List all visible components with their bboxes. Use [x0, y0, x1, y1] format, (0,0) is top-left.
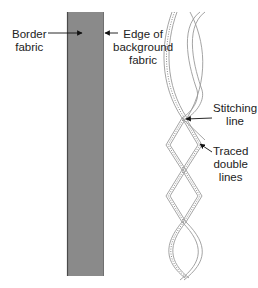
label-line: Traced — [213, 145, 248, 158]
label-line: Edge of — [113, 28, 173, 41]
label-line: background — [113, 41, 173, 54]
label-line: lines — [213, 171, 248, 184]
label-line: line — [213, 115, 257, 128]
label-line: Stitching — [213, 102, 257, 115]
label-line: fabric — [113, 54, 173, 67]
label-border-fabric: Border fabric — [12, 28, 47, 54]
label-traced-double-lines: Traced double lines — [213, 145, 248, 184]
label-line: double — [213, 158, 248, 171]
arrow-stitching-line — [186, 118, 212, 119]
border-fabric-strip — [67, 12, 104, 276]
label-stitching-line: Stitching line — [213, 102, 257, 128]
label-edge-of-background-fabric: Edge of background fabric — [113, 28, 173, 67]
label-line: fabric — [12, 41, 47, 54]
label-line: Border — [12, 28, 47, 41]
arrow-traced-double-lines — [200, 144, 212, 152]
